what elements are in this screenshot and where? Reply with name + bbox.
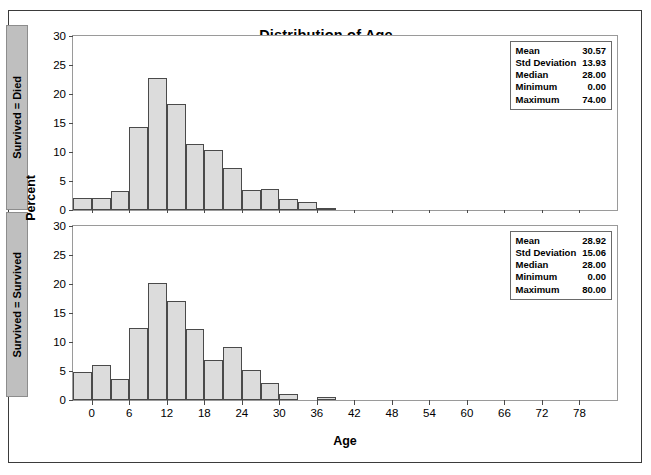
stats-box-died: Mean30.57Std Deviation13.93Median28.00Mi… [510,41,612,110]
stat-value: 13.93 [582,57,606,69]
histogram-bar [129,328,148,400]
y-tick-label: 25 [6,59,73,71]
x-tick-label: 12 [160,407,173,419]
x-tick-label: 60 [461,407,474,419]
x-tick-mark [129,400,130,405]
y-tick-label: 20 [6,88,73,100]
x-tick-mark [392,400,393,405]
stat-key: Mean [516,235,546,247]
stat-row: Std Deviation15.06 [516,247,606,259]
x-tick-mark [579,400,580,405]
y-tick-mark [69,123,73,124]
histogram-bar [186,329,205,400]
x-tick-mark [242,210,243,213]
y-tick-label: 30 [6,220,73,232]
stat-value: 0.00 [588,271,607,283]
stat-row: Mean30.57 [516,45,606,57]
x-tick-label: 72 [536,407,549,419]
y-tick-label: 10 [6,146,73,158]
stat-value: 74.00 [582,94,606,106]
histogram-bar [298,202,317,210]
y-tick-mark [69,210,73,211]
y-tick-label: 5 [6,365,73,377]
stat-row: Median28.00 [516,259,606,271]
x-tick-mark [579,210,580,213]
x-tick-mark [279,400,280,405]
x-tick-mark [129,210,130,213]
stat-key: Maximum [516,94,566,106]
histogram-bar [261,189,280,210]
stat-key: Maximum [516,284,566,296]
stat-value: 30.57 [582,45,606,57]
x-tick-label: 6 [126,407,132,419]
x-tick-label: 0 [89,407,95,419]
stat-row: Minimum0.00 [516,81,606,93]
x-tick-label: 66 [498,407,511,419]
y-tick-label: 5 [6,175,73,187]
stat-key: Std Deviation [516,57,583,69]
x-tick-mark [354,210,355,213]
panel-survived: 05101520253006121824303642485460667278 M… [72,225,618,401]
x-tick-mark [317,400,318,405]
stat-key: Minimum [516,81,564,93]
histogram-bar [167,301,186,400]
histogram-bar [223,347,242,400]
stat-key: Std Deviation [516,247,583,259]
histogram-bar [111,379,130,400]
x-tick-mark [504,400,505,405]
histogram-bar [279,199,298,210]
x-tick-mark [92,400,93,405]
x-tick-label: 18 [198,407,211,419]
y-tick-mark [69,36,73,37]
histogram-bar [186,144,205,210]
y-tick-mark [69,313,73,314]
y-tick-mark [69,400,73,401]
y-tick-label: 0 [6,204,73,216]
stat-row: Std Deviation13.93 [516,57,606,69]
x-tick-mark [429,210,430,213]
stat-key: Median [516,259,555,271]
stat-key: Mean [516,45,546,57]
x-tick-mark [167,400,168,405]
x-tick-label: 30 [273,407,286,419]
y-tick-label: 15 [6,307,73,319]
y-tick-label: 30 [6,30,73,42]
histogram-bar [148,283,167,400]
x-tick-mark [542,400,543,405]
x-tick-label: 54 [423,407,436,419]
x-tick-label: 48 [385,407,398,419]
stats-box-survived: Mean28.92Std Deviation15.06Median28.00Mi… [510,231,612,300]
x-axis-label: Age [72,434,618,448]
stat-value: 28.92 [582,235,606,247]
x-tick-label: 42 [348,407,361,419]
y-tick-mark [69,284,73,285]
y-tick-label: 0 [6,394,73,406]
histogram-bar [111,191,130,210]
x-tick-mark [279,210,280,213]
y-tick-mark [69,152,73,153]
x-tick-label: 36 [310,407,323,419]
y-tick-label: 25 [6,249,73,261]
histogram-bar [242,370,261,400]
x-tick-mark [167,210,168,213]
x-tick-mark [204,400,205,405]
x-tick-mark [317,210,318,213]
stat-key: Median [516,69,555,81]
histogram-bar [167,104,186,210]
stat-row: Maximum74.00 [516,94,606,106]
y-tick-mark [69,181,73,182]
x-tick-mark [467,210,468,213]
x-tick-mark [204,210,205,213]
histogram-bar [317,397,336,400]
stat-value: 28.00 [582,259,606,271]
stat-value: 28.00 [582,69,606,81]
figure-root: Distribution of Age Survived = Died Surv… [0,0,651,475]
stat-row: Minimum0.00 [516,271,606,283]
x-tick-mark [542,210,543,213]
histogram-bar [92,365,111,400]
x-tick-mark [242,400,243,405]
histogram-bar [73,372,92,400]
x-tick-mark [504,210,505,213]
x-tick-mark [92,210,93,213]
y-tick-mark [69,255,73,256]
